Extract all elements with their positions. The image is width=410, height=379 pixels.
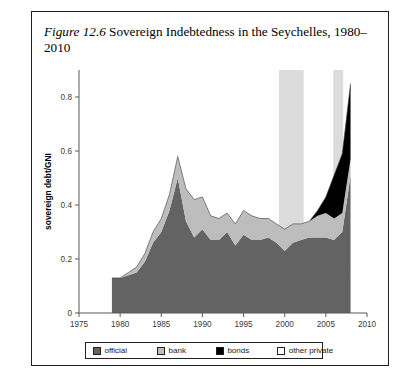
- y-tick-label: 0.8: [61, 93, 73, 102]
- x-tick-label: 2000: [276, 320, 295, 329]
- y-tick-label: 0.2: [61, 255, 73, 264]
- x-tick-label: 1990: [193, 320, 212, 329]
- y-tick-label: 0: [67, 309, 72, 318]
- x-tick-label: 2005: [317, 320, 336, 329]
- y-axis-label: sovereign debt/GNI: [43, 153, 53, 230]
- figure-label: Figure 12.6: [44, 24, 106, 39]
- area-series-official: [112, 175, 351, 313]
- x-tick-label: 1985: [152, 320, 171, 329]
- x-tick-label: 1980: [111, 320, 130, 329]
- legend-swatch-bank: [157, 347, 165, 355]
- figure-caption: Figure 12.6 Sovereign Indebtedness in th…: [44, 24, 374, 55]
- legend-label-bonds: bonds: [227, 346, 249, 355]
- legend-swatch-official: [93, 347, 101, 355]
- figure-page: Figure 12.6 Sovereign Indebtedness in th…: [0, 0, 410, 379]
- x-tick-label: 1975: [70, 320, 89, 329]
- legend-swatch-other-private: [277, 347, 285, 355]
- legend-item-bank[interactable]: bank: [157, 346, 186, 355]
- legend-item-bonds[interactable]: bonds: [216, 346, 249, 355]
- legend-item-official[interactable]: official: [93, 346, 127, 355]
- legend-swatch-bonds: [216, 347, 224, 355]
- area-chart: 00.20.40.60.8197519801985199019952000200…: [31, 60, 389, 330]
- x-tick-label: 1995: [234, 320, 253, 329]
- x-tick-label: 2010: [358, 320, 377, 329]
- y-tick-label: 0.4: [61, 201, 73, 210]
- chart-plot-area: 00.20.40.60.8197519801985199019952000200…: [31, 60, 389, 330]
- y-tick-label: 0.6: [61, 147, 73, 156]
- legend-label-other-private: other private: [289, 346, 333, 355]
- chart-legend: official bank bonds other private: [85, 342, 323, 359]
- legend-label-official: official: [105, 346, 128, 355]
- legend-label-bank: bank: [169, 346, 186, 355]
- legend-item-other-private[interactable]: other private: [277, 346, 333, 355]
